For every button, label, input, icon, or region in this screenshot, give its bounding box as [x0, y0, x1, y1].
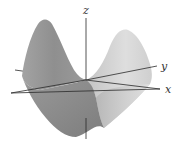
surface-left-lobe	[22, 20, 86, 91]
saddle-diagram: z y x	[0, 0, 187, 145]
x-axis-label: x	[165, 83, 172, 96]
y-axis-label: y	[160, 60, 168, 73]
z-axis-label: z	[82, 4, 89, 17]
